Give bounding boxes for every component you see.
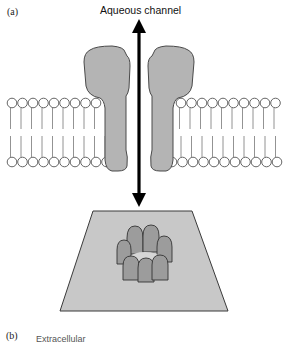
left-channel-protein [84,46,130,171]
extracellular-label: Extracellular [36,334,86,342]
right-channel-protein [148,46,194,171]
channel-diagram [0,0,289,342]
aqueous-flow-arrow [132,19,146,207]
right-membrane [167,98,282,167]
panel-b-label: (b) [6,330,18,341]
left-membrane [7,98,111,167]
ion-channel-figure: (a) Aqueous channel [0,0,289,342]
